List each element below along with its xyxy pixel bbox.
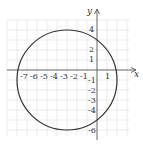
svg-text:-3: -3 xyxy=(88,96,96,105)
y-tick-labels: 4 2 1 -1 -2 -3 -4 -6 xyxy=(88,25,96,135)
svg-text:-6: -6 xyxy=(88,126,96,135)
y-axis-label: y xyxy=(86,6,93,16)
svg-text:-2: -2 xyxy=(70,72,78,81)
svg-text:1: 1 xyxy=(89,55,94,64)
x-axis-label: x xyxy=(134,69,139,79)
svg-text:-3: -3 xyxy=(60,72,68,81)
svg-text:-4: -4 xyxy=(50,72,58,81)
svg-text:-7: -7 xyxy=(20,72,28,81)
svg-text:1: 1 xyxy=(105,72,110,81)
svg-text:-1: -1 xyxy=(80,72,88,81)
circle-graph: x y -7 -6 -5 -4 -3 -2 -1 1 4 2 1 -1 -2 -… xyxy=(0,0,143,148)
svg-text:-2: -2 xyxy=(88,86,96,95)
svg-text:4: 4 xyxy=(89,25,94,34)
svg-text:2: 2 xyxy=(89,45,94,54)
svg-text:-5: -5 xyxy=(40,72,48,81)
svg-text:-4: -4 xyxy=(88,106,96,115)
svg-text:-1: -1 xyxy=(88,76,96,85)
svg-text:-6: -6 xyxy=(30,72,38,81)
